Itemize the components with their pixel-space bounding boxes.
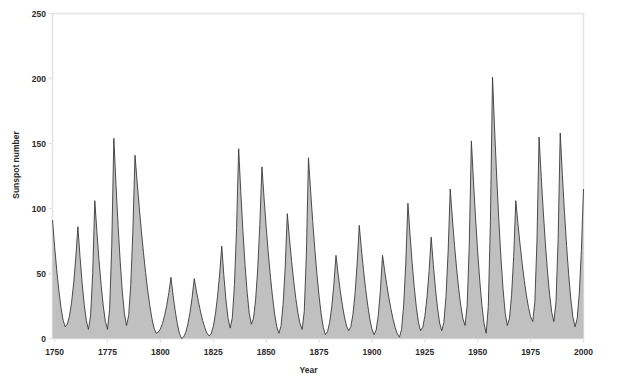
x-tick-label: 1925 <box>400 347 450 357</box>
x-tick-label: 1800 <box>135 347 185 357</box>
x-tick-label: 1850 <box>241 347 291 357</box>
x-tick-label: 1900 <box>347 347 397 357</box>
x-tick-label: 2000 <box>559 347 609 357</box>
x-tick-label: 1750 <box>30 347 80 357</box>
y-tick-label: 0 <box>0 334 46 344</box>
x-tick-label: 1775 <box>83 347 133 357</box>
sunspot-chart-figure: Sunspot number Year 050100150200250 1750… <box>0 0 617 383</box>
x-tick-label: 1950 <box>453 347 503 357</box>
y-tick-label: 50 <box>0 269 46 279</box>
y-tick-label: 150 <box>0 139 46 149</box>
y-tick-label: 200 <box>0 74 46 84</box>
x-tick-label: 1975 <box>506 347 556 357</box>
x-tick-label: 1875 <box>294 347 344 357</box>
x-axis-title: Year <box>0 365 617 375</box>
x-tick-label: 1825 <box>188 347 238 357</box>
y-tick-label: 100 <box>0 204 46 214</box>
y-tick-label: 250 <box>0 9 46 19</box>
sunspot-plot-area <box>0 0 617 383</box>
